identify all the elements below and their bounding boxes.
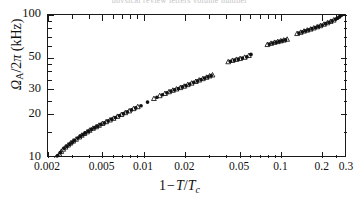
data-point-filled-circle — [110, 117, 114, 121]
data-point-filled-circle — [307, 28, 311, 32]
data-point-filled-circle — [134, 106, 138, 110]
x-tick-label: 0.005 — [79, 161, 125, 173]
data-point-filled-circle — [99, 122, 103, 126]
data-point-filled-circle — [236, 57, 240, 61]
plot-canvas — [48, 15, 347, 158]
data-point-filled-circle — [284, 38, 288, 42]
data-point-filled-circle — [56, 154, 60, 158]
data-point-filled-circle — [209, 74, 213, 78]
x-tick-label: 0.02 — [161, 161, 207, 173]
y-title-over: /2 — [9, 62, 24, 73]
y-title-omega: Ω — [9, 80, 24, 90]
data-point-filled-circle — [90, 127, 94, 131]
data-point-filled-circle — [271, 41, 275, 45]
x-tick-label: 0.002 — [24, 161, 70, 173]
data-point-filled-circle — [59, 151, 63, 155]
data-point-filled-circle — [169, 89, 173, 93]
data-point-filled-circle — [241, 56, 245, 60]
data-point-filled-circle — [245, 55, 249, 59]
data-point-filled-circle — [310, 27, 314, 31]
data-point-filled-circle — [161, 93, 165, 97]
x-axis-title: 1−T/Tc — [0, 178, 359, 195]
data-point-filled-circle — [297, 31, 301, 35]
data-point-filled-circle — [301, 30, 305, 34]
x-title-t: T — [176, 178, 184, 193]
data-point-filled-circle — [125, 110, 129, 114]
data-point-filled-circle — [173, 88, 177, 92]
data-point-filled-circle — [233, 58, 237, 62]
clipped-caption-remnant: physical review letters volume number — [0, 0, 359, 3]
data-point-filled-circle — [203, 76, 207, 80]
data-point-filled-circle — [317, 25, 321, 29]
data-point-filled-circle — [114, 116, 118, 120]
tick-marks — [48, 15, 347, 158]
data-point-filled-circle — [192, 81, 196, 85]
data-point-filled-circle — [184, 84, 188, 88]
data-point-filled-circle — [267, 42, 271, 46]
data-point-filled-circle — [106, 119, 110, 123]
y-title-pi: π — [9, 55, 24, 62]
y-axis-title: ΩA/2π (kHz) — [9, 0, 26, 110]
x-tick-label: 0.3 — [323, 161, 359, 173]
data-point-filled-circle — [118, 114, 122, 118]
data-point-filled-circle — [206, 75, 210, 79]
y-title-omega-subscript: A — [14, 73, 25, 80]
x-title-tc-subscript: c — [195, 184, 199, 195]
x-tick-label: 0.05 — [216, 161, 262, 173]
data-point-filled-circle — [249, 53, 253, 57]
data-point-filled-circle — [122, 112, 126, 116]
data-point-filled-circle — [324, 22, 328, 26]
x-tick-label: 0.1 — [257, 161, 303, 173]
data-point-filled-circle — [155, 95, 159, 99]
data-point-filled-circle — [103, 121, 107, 125]
x-tick-label: 0.01 — [120, 161, 166, 173]
data-point-filled-circle — [314, 26, 318, 30]
data-point-filled-circle — [188, 82, 192, 86]
data-point-filled-circle — [180, 85, 184, 89]
data-point-filled-circle — [280, 39, 284, 43]
plot-area — [47, 14, 346, 157]
data-points — [53, 15, 343, 158]
data-point-filled-circle — [165, 91, 169, 95]
y-title-unit: (kHz) — [9, 19, 24, 55]
data-point-filled-circle — [139, 104, 143, 108]
data-point-filled-circle — [330, 19, 334, 23]
data-point-filled-circle — [96, 124, 100, 128]
data-point-filled-circle — [196, 79, 200, 83]
data-point-filled-circle — [130, 108, 134, 112]
x-title-one: 1 — [159, 178, 166, 193]
data-point-filled-circle — [274, 40, 278, 44]
data-point-filled-circle — [73, 138, 77, 142]
data-point-filled-circle — [146, 100, 150, 104]
figure-log-log-scatter: physical review letters volume number 10… — [0, 0, 359, 203]
x-title-minus: − — [166, 178, 176, 193]
data-point-filled-circle — [177, 87, 181, 91]
data-point-filled-circle — [320, 23, 324, 27]
data-point-filled-circle — [229, 59, 233, 63]
data-point-filled-circle — [199, 78, 203, 82]
